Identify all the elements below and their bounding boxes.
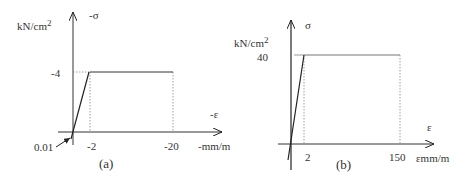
x-tick-b1: 2 <box>305 152 311 163</box>
y-tick-a: -4 <box>51 68 60 79</box>
x-unit-label-b: εmm/m <box>416 153 449 164</box>
x-tick-b2: 150 <box>389 152 406 163</box>
x-axis-label-a: -ε <box>210 109 218 120</box>
y-unit-text-b: kN/cm <box>234 37 264 49</box>
elastic-line-a <box>71 72 89 139</box>
x-tick-a1: -2 <box>87 141 96 152</box>
y-unit-label-b: kN/cm2 <box>234 36 268 49</box>
origin-annotation-a: 0.01 <box>34 142 53 153</box>
x-axis-label-b: ε <box>427 122 432 133</box>
x-unit-label-a: -mm/m <box>198 141 230 152</box>
y-tick-b: 40 <box>257 52 268 63</box>
y-unit-label-a: kN/cm2 <box>17 19 51 32</box>
x-tick-a2: -20 <box>164 141 179 152</box>
y-unit-exp-a: 2 <box>47 18 52 28</box>
caption-a: (a) <box>99 157 113 170</box>
y-unit-exp-b: 2 <box>264 35 269 45</box>
y-axis-label-a: -σ <box>89 10 99 21</box>
annotation-arrow-a <box>56 138 70 147</box>
diagram-b <box>278 20 434 170</box>
y-axis-label-b: σ <box>305 20 311 31</box>
y-unit-text-a: kN/cm <box>17 20 47 32</box>
caption-b: (b) <box>336 158 351 171</box>
diagram-a <box>56 12 222 147</box>
